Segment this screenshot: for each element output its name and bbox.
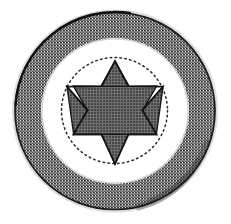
artwork-root: Scanned line drawing of a round medallio… [0,0,231,224]
medallion-illustration [0,0,231,224]
